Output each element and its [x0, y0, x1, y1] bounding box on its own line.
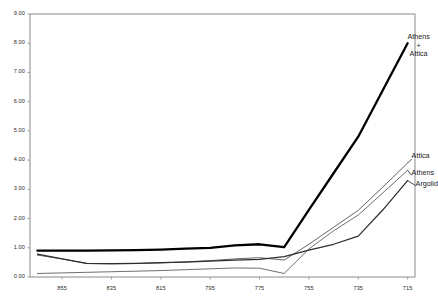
x-tick-label: 855 — [57, 286, 67, 292]
y-tick-label: 8.00 — [0, 40, 25, 46]
y-tick-label: 2.00 — [0, 216, 25, 222]
series-label-athens: Athens — [412, 169, 434, 177]
y-tick-label: 6.00 — [0, 99, 25, 105]
y-tick-label: 0.00 — [0, 274, 25, 280]
series-label-argolid: Argolid — [416, 180, 438, 188]
x-tick-label: 755 — [304, 286, 314, 292]
y-tick-label: 7.00 — [0, 70, 25, 76]
y-tick-label: 4.00 — [0, 157, 25, 163]
x-tick-label: 735 — [353, 286, 363, 292]
y-tick-label: 5.00 — [0, 128, 25, 134]
x-tick-label: 795 — [205, 286, 215, 292]
x-tick-label: 815 — [156, 286, 166, 292]
y-tick-label: 9.00 — [0, 11, 25, 17]
x-tick-label: 715 — [403, 286, 413, 292]
plot-frame — [30, 14, 415, 277]
x-tick-label: 775 — [255, 286, 265, 292]
series-label-athens-attica: Athens + Attica — [407, 33, 429, 58]
x-tick-label: 835 — [107, 286, 117, 292]
plot-area-border — [30, 14, 415, 277]
series-label-athens-attica-line3: Attica — [407, 50, 429, 58]
y-tick-label: 3.00 — [0, 187, 25, 193]
y-tick-label: 1.00 — [0, 245, 25, 251]
series-label-attica: Attica — [412, 152, 430, 160]
